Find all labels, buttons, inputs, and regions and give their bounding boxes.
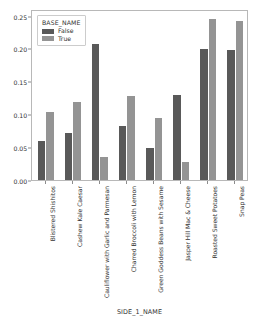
bar-group	[119, 11, 135, 180]
bar-true	[73, 102, 81, 180]
x-axis: Blistered ShishitosCashew Kale CaesarCau…	[31, 181, 248, 301]
bar-true	[100, 157, 108, 180]
bar-false	[92, 44, 100, 180]
x-tick-label: Roasted Sweet Potatoes	[211, 186, 218, 258]
bar-false	[38, 141, 46, 180]
bar-true	[127, 96, 135, 180]
x-tick-mark	[72, 181, 73, 184]
bar-group	[92, 11, 108, 180]
bar-true	[209, 19, 217, 180]
x-tick-mark	[234, 181, 235, 184]
bar-false	[119, 126, 127, 180]
x-tick-label: Charred Broccoli with Lemon	[129, 186, 136, 272]
y-axis: 0.000.050.100.150.200.25	[0, 10, 31, 181]
bar-false	[200, 49, 208, 180]
x-tick-mark	[153, 181, 154, 184]
bar-chart-figure: 0.000.050.100.150.200.25 BASE_NAME False…	[0, 0, 255, 326]
y-tick-label: 0.20	[14, 46, 27, 53]
x-tick-mark	[99, 181, 100, 184]
y-tick-label: 0.15	[14, 79, 27, 86]
x-tick-mark	[45, 181, 46, 184]
bar-false	[173, 95, 181, 181]
legend-label: False	[58, 28, 74, 34]
chart-legend: BASE_NAME FalseTrue	[37, 15, 86, 46]
y-tick-label: 0.10	[14, 112, 27, 119]
y-tick-label: 0.05	[14, 145, 27, 152]
x-tick-label: Blistered Shishitos	[48, 186, 55, 241]
legend-swatch-icon	[42, 36, 54, 41]
legend-entries: FalseTrue	[42, 28, 80, 42]
legend-label: True	[58, 36, 71, 42]
x-tick-label: Jasper Hill Mac & Cheese	[184, 186, 191, 261]
bar-false	[65, 133, 73, 180]
y-tick-label: 0.00	[14, 178, 27, 185]
x-tick-mark	[126, 181, 127, 184]
bar-true	[236, 21, 244, 180]
x-tick-mark	[180, 181, 181, 184]
bar-group	[146, 11, 162, 180]
bar-group	[173, 11, 189, 180]
x-tick-label: Cashew Kale Caesar	[75, 186, 82, 247]
bar-true	[155, 118, 163, 180]
bar-true	[182, 162, 190, 180]
x-tick-label: Green Goddess Beans with Sesame	[157, 186, 164, 293]
x-axis-title: SIDE_1_NAME	[31, 308, 248, 316]
bar-false	[227, 50, 235, 180]
legend-entry[interactable]: True	[42, 36, 80, 42]
legend-title: BASE_NAME	[42, 19, 80, 26]
bar-true	[46, 112, 54, 180]
x-tick-mark	[207, 181, 208, 184]
x-tick-label: Cauliflower with Garlic and Parmesan	[102, 186, 109, 298]
y-tick-label: 0.25	[14, 13, 27, 20]
legend-entry[interactable]: False	[42, 28, 80, 34]
legend-swatch-icon	[42, 29, 54, 34]
x-tick-label: Snap Peas	[238, 186, 245, 217]
bar-group	[200, 11, 216, 180]
bar-false	[146, 148, 154, 180]
bar-group	[227, 11, 243, 180]
